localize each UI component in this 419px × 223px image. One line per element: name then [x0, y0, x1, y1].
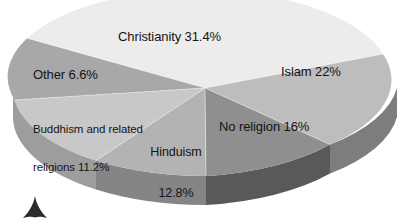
triangle-marker	[22, 196, 48, 220]
pie-chart-graphic	[0, 0, 419, 223]
pie-chart: Christianity 31.4% Islam 22% No religion…	[0, 0, 419, 223]
